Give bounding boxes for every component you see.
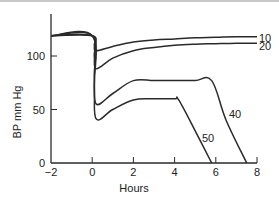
x-tick-label: 4 xyxy=(172,166,178,178)
x-tick-label: 0 xyxy=(89,166,95,178)
x-tick-label: 2 xyxy=(130,166,136,178)
x-tick-label: 6 xyxy=(213,166,219,178)
x-tick-label: −2 xyxy=(45,166,58,178)
series-line-40 xyxy=(51,32,247,163)
x-axis-title: Hours xyxy=(119,182,149,194)
series-lines xyxy=(51,31,257,163)
series-label-50: 50 xyxy=(202,132,214,144)
series-label-20: 20 xyxy=(259,40,271,52)
series-label-40: 40 xyxy=(229,108,241,120)
y-tick-label: 0 xyxy=(39,157,45,169)
y-tick-label: 50 xyxy=(33,104,45,116)
bp-line-chart: −202468050100 BP mm Hg Hours 10 20 40 50 xyxy=(0,0,279,203)
x-tick-label: 8 xyxy=(254,166,260,178)
y-tick-label: 100 xyxy=(27,50,45,62)
axes: −202468050100 xyxy=(27,14,260,178)
y-axis-title: BP mm Hg xyxy=(11,86,23,139)
